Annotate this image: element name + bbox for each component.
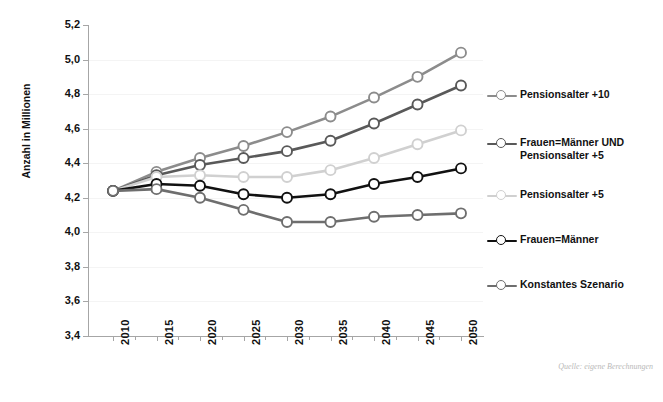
legend-item[interactable]: Frauen=Männer — [487, 233, 598, 248]
data-point — [239, 189, 249, 199]
legend-item-label: Konstantes Szenario — [517, 278, 624, 291]
data-point — [239, 153, 249, 163]
data-point — [239, 205, 249, 215]
data-point — [282, 193, 292, 203]
data-point — [326, 165, 336, 175]
legend-item-label: Pensionsalter +5 — [517, 188, 604, 201]
data-point — [195, 160, 205, 170]
legend-marker-icon — [487, 89, 517, 103]
data-point — [282, 146, 292, 156]
data-point — [413, 139, 423, 149]
data-point — [456, 208, 466, 218]
data-point — [413, 99, 423, 109]
data-point — [369, 153, 379, 163]
data-point — [326, 217, 336, 227]
legend-item-label: Frauen=Männer — [517, 233, 598, 246]
data-point — [282, 217, 292, 227]
legend-item-label: Frauen=Männer UND Pensionsalter +5 — [517, 136, 624, 162]
data-point — [369, 93, 379, 103]
data-point — [239, 141, 249, 151]
data-point — [413, 172, 423, 182]
data-point — [369, 179, 379, 189]
data-point — [413, 210, 423, 220]
data-point — [282, 127, 292, 137]
data-point — [369, 118, 379, 128]
legend-item-label: Pensionsalter +10 — [517, 88, 610, 101]
data-point — [152, 184, 162, 194]
legend-item[interactable]: Frauen=Männer UND Pensionsalter +5 — [487, 136, 624, 162]
data-point — [456, 125, 466, 135]
legend-marker-icon — [487, 137, 517, 151]
legend-marker-icon — [487, 234, 517, 248]
legend-item[interactable]: Pensionsalter +5 — [487, 188, 604, 203]
data-point — [413, 72, 423, 82]
data-point — [195, 193, 205, 203]
data-point — [282, 172, 292, 182]
data-point — [369, 212, 379, 222]
data-point — [239, 172, 249, 182]
data-point — [108, 186, 118, 196]
legend-marker-icon — [487, 189, 517, 203]
data-point — [456, 48, 466, 58]
data-point — [195, 170, 205, 180]
data-point — [326, 189, 336, 199]
legend-item[interactable]: Konstantes Szenario — [487, 278, 624, 293]
source-note: Quelle: eigene Berechnungen — [558, 362, 653, 371]
data-point — [326, 136, 336, 146]
series-line — [113, 53, 461, 191]
data-point — [456, 163, 466, 173]
data-point — [326, 112, 336, 122]
legend-marker-icon — [487, 279, 517, 293]
chart-container: Anzahl in Millionen 5,25,04,84,64,44,24,… — [0, 0, 663, 402]
series-5 — [108, 184, 466, 227]
data-point — [195, 181, 205, 191]
data-point — [456, 80, 466, 90]
legend-item[interactable]: Pensionsalter +10 — [487, 88, 610, 103]
